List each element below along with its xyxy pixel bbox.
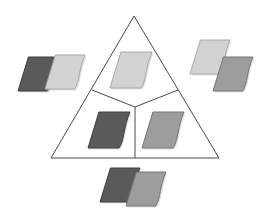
outer-pair-bottom — [100, 168, 168, 208]
outer-pair-left — [18, 55, 87, 93]
diagram-root — [0, 0, 266, 210]
outer-pair-right — [190, 40, 255, 93]
diagram-canvas — [0, 0, 266, 210]
